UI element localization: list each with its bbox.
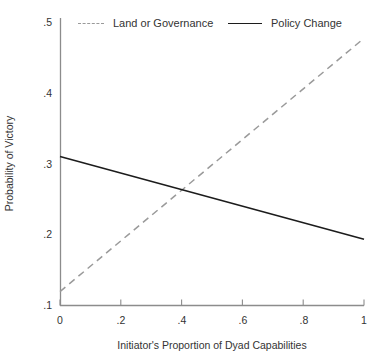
series-line-policy-change [60,156,364,239]
series-lines [60,38,364,291]
x-tick-marks [60,300,364,306]
plot-area [0,0,382,362]
series-line-land-or-governance [60,38,364,291]
axis-spines [60,18,364,306]
chart-figure: Land or Governance Policy Change .5 .4 .… [0,0,382,362]
